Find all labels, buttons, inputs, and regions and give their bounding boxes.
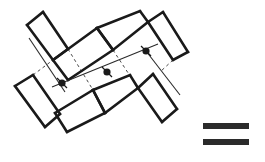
rectangle-d bbox=[148, 12, 188, 60]
corner-dot bbox=[32, 74, 35, 77]
dashed-line bbox=[68, 49, 93, 90]
corner-dot bbox=[26, 24, 29, 27]
corner-dot bbox=[147, 21, 150, 24]
corner-dot bbox=[139, 10, 142, 13]
corner-dot bbox=[187, 51, 190, 54]
corner-dot bbox=[176, 108, 179, 111]
corner-dot bbox=[42, 11, 45, 14]
node-dot bbox=[58, 79, 65, 86]
corner-dot bbox=[129, 74, 132, 77]
rectangle-g bbox=[93, 75, 138, 113]
corner-dot bbox=[152, 73, 155, 76]
corner-dot bbox=[161, 121, 164, 124]
rectangle-group bbox=[14, 10, 190, 134]
corner-dot bbox=[59, 113, 62, 116]
legend-bars bbox=[203, 123, 249, 145]
corner-dot bbox=[162, 11, 165, 14]
corner-dot bbox=[54, 112, 57, 115]
corner-dot bbox=[92, 89, 95, 92]
dashed-line bbox=[160, 60, 173, 72]
corner-dot bbox=[96, 27, 99, 30]
diagram-canvas bbox=[0, 0, 265, 162]
node-dot bbox=[142, 47, 149, 54]
corner-dot bbox=[44, 126, 47, 129]
rectangle-h bbox=[138, 74, 177, 122]
rectangle-e bbox=[15, 75, 60, 127]
node-dot bbox=[103, 68, 110, 75]
filled-bar bbox=[203, 123, 249, 129]
corner-dot bbox=[172, 59, 175, 62]
corner-dot bbox=[52, 59, 55, 62]
dashed-line bbox=[33, 60, 53, 75]
corner-dot bbox=[14, 85, 17, 88]
rectangle-c bbox=[97, 11, 148, 50]
corner-dot bbox=[66, 131, 69, 134]
corner-dot bbox=[137, 87, 140, 90]
corner-dot bbox=[104, 112, 107, 115]
filled-bar bbox=[203, 139, 249, 145]
corner-dot bbox=[112, 49, 115, 52]
